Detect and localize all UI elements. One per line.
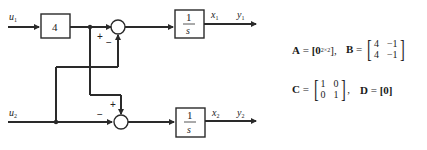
block-diagram: u1 u2 4 1 s x1 y1 1 s x2 y2 + − + −	[0, 0, 280, 150]
matrix-a-eq: A = [02×2],	[292, 44, 337, 56]
matrix-d-eq: D = [0]	[360, 84, 393, 96]
matrix-b-eq: B = [ 4−1 4−1 ]	[346, 36, 406, 62]
summer-1-minus: −	[106, 37, 112, 48]
y2-label: y2	[236, 107, 244, 119]
summer-1	[111, 20, 125, 34]
u2-label: u2	[9, 107, 17, 119]
integrator-2-num: 1	[187, 109, 193, 121]
x2-label: x2	[211, 107, 219, 119]
x1-label: x1	[210, 9, 218, 21]
summer-2-minus: −	[97, 109, 103, 120]
summer-2-plus: +	[110, 99, 116, 110]
summer-1-plus: +	[97, 31, 103, 42]
y1-label: y1	[236, 9, 244, 21]
integrator-1-num: 1	[186, 11, 192, 23]
matrix-c-eq: C = [ 10 01 ] ,	[292, 76, 350, 102]
integrator-2-den: s	[187, 124, 191, 135]
u1-label: u1	[9, 11, 17, 23]
integrator-1-den: s	[186, 25, 190, 36]
summer-2	[114, 115, 128, 129]
gain-label: 4	[52, 21, 58, 33]
